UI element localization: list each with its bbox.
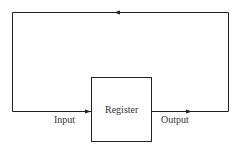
feedback-arrow-icon <box>114 11 120 15</box>
output-arrow-icon <box>186 110 192 114</box>
feedback-loop-diagram <box>0 0 241 149</box>
register-label: Register <box>105 104 138 115</box>
output-label: Output <box>161 114 189 125</box>
input-arrow-icon <box>85 110 91 114</box>
feedback-path <box>13 13 229 112</box>
input-label: Input <box>54 114 75 125</box>
